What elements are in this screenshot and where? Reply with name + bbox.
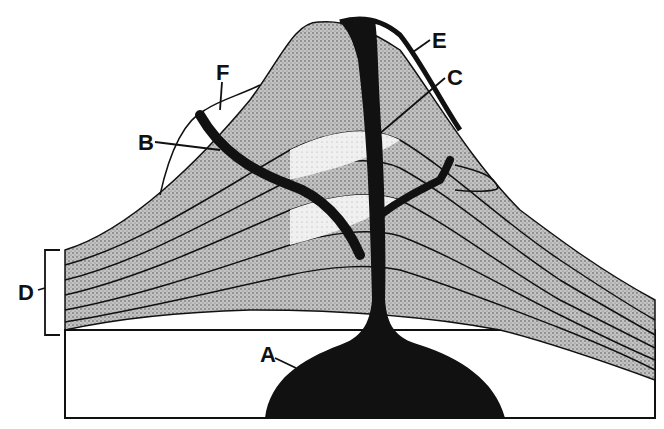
- volcano-diagram: A B C D E F: [0, 0, 664, 429]
- label-d: D: [18, 280, 34, 305]
- label-f: F: [216, 60, 229, 85]
- label-e: E: [432, 28, 447, 53]
- label-c: C: [447, 65, 463, 90]
- label-b: B: [138, 130, 154, 155]
- label-a: A: [260, 342, 276, 367]
